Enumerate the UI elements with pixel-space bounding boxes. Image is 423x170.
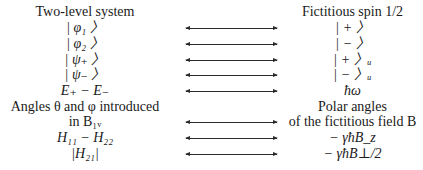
state-psi-plus: | ψ₊ 〉	[0, 52, 170, 68]
table-row: | ψ₋ 〉 | − 〉ᵤ	[0, 67, 423, 83]
field-z-component: − γħB_z	[282, 130, 423, 146]
header-fictitious-spin: Fictitious spin 1/2	[282, 4, 423, 20]
state-minus: | − 〉	[282, 36, 423, 52]
hamiltonian-diagonal-difference: H₁₁ − H₂₂	[0, 130, 170, 146]
table-row: Angles θ and φ introduced Polar angles	[0, 99, 423, 115]
double-arrow-icon	[186, 28, 277, 29]
table-row: in B₁ᵥ of the fictitious field B	[0, 114, 423, 130]
table-row: E₊ − E₋ ħω	[0, 83, 423, 99]
table-row: H₁₁ − H₂₂ − γħB_z	[0, 130, 423, 146]
hbar-omega: ħω	[282, 83, 423, 99]
energy-difference: E₊ − E₋	[0, 83, 170, 99]
double-arrow-icon	[186, 138, 277, 139]
table-row: |H₂₁| − γħB⊥/2	[0, 146, 423, 162]
double-arrow-icon	[186, 44, 277, 45]
angles-label: Angles θ and φ introduced	[0, 99, 170, 115]
state-minus-u: | − 〉ᵤ	[282, 67, 423, 83]
state-phi1: | φ₁ 〉	[0, 20, 170, 36]
table-row: | φ₂ 〉 | − 〉	[0, 36, 423, 52]
angles-reference: in B₁ᵥ	[0, 114, 170, 130]
state-plus: | + 〉	[282, 20, 423, 36]
table-row: | ψ₊ 〉 | + 〉ᵤ	[0, 52, 423, 68]
fictitious-field-label: of the fictitious field B	[282, 114, 423, 130]
table-row: | φ₁ 〉 | + 〉	[0, 20, 423, 36]
double-arrow-icon	[186, 122, 277, 123]
header-row: Two-level system Fictitious spin 1/2	[0, 4, 423, 20]
double-arrow-icon	[186, 60, 277, 61]
double-arrow-icon	[186, 75, 277, 76]
state-psi-minus: | ψ₋ 〉	[0, 67, 170, 83]
field-perpendicular-component: − γħB⊥/2	[282, 146, 423, 162]
state-plus-u: | + 〉ᵤ	[282, 52, 423, 68]
hamiltonian-offdiagonal-modulus: |H₂₁|	[0, 146, 170, 162]
double-arrow-icon	[186, 91, 277, 92]
polar-angles-label: Polar angles	[282, 99, 423, 115]
state-phi2: | φ₂ 〉	[0, 36, 170, 52]
double-arrow-icon	[186, 154, 277, 155]
header-two-level-system: Two-level system	[0, 4, 170, 20]
